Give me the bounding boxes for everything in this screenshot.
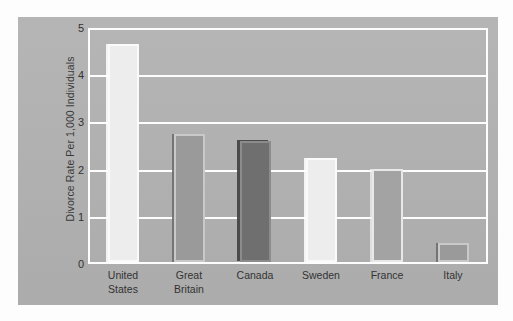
y-tick-1: 1	[58, 211, 84, 223]
bar-italy[interactable]	[438, 243, 469, 262]
x-label-line-2: Britain	[156, 283, 222, 297]
bar-great-britain[interactable]	[174, 134, 205, 262]
x-label-united-states: United States	[90, 269, 156, 296]
bar-france[interactable]	[372, 169, 403, 262]
y-tick-5: 5	[58, 22, 84, 34]
x-label-line-1: Sweden	[288, 269, 354, 283]
x-label-italy: Italy	[420, 269, 486, 283]
bar-sweden[interactable]	[306, 158, 337, 262]
y-tick-2: 2	[58, 164, 84, 176]
x-label-line-1: United	[90, 269, 156, 283]
bar-united-states[interactable]	[108, 44, 139, 262]
bar-series	[90, 30, 486, 262]
y-tick-0: 0	[58, 258, 84, 270]
x-axis-tick-labels: United States Great Britain Canada Swede…	[90, 269, 486, 309]
x-label-sweden: Sweden	[288, 269, 354, 283]
bar-canada[interactable]	[240, 141, 271, 262]
chart-panel: Divorce Rate Per 1,000 Individuals 5 4 3…	[18, 17, 498, 305]
x-label-line-1: Great	[156, 269, 222, 283]
chart-figure: Divorce Rate Per 1,000 Individuals 5 4 3…	[0, 0, 513, 321]
x-label-line-1: Canada	[222, 269, 288, 283]
x-label-line-2: States	[90, 283, 156, 297]
x-label-canada: Canada	[222, 269, 288, 283]
x-label-france: France	[354, 269, 420, 283]
y-axis-tick-labels: 5 4 3 2 1 0	[54, 28, 84, 264]
y-tick-4: 4	[58, 69, 84, 81]
y-tick-3: 3	[58, 116, 84, 128]
x-label-line-1: Italy	[420, 269, 486, 283]
x-label-great-britain: Great Britain	[156, 269, 222, 296]
x-label-line-1: France	[354, 269, 420, 283]
